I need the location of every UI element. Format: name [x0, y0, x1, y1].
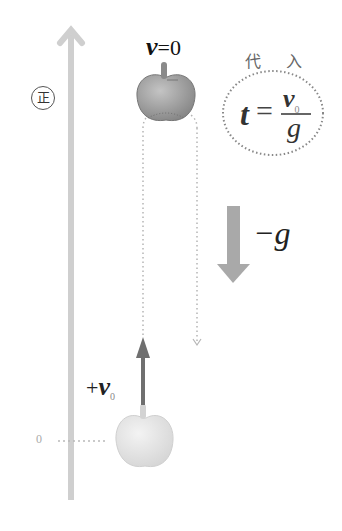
velocity-sign: +	[86, 375, 98, 400]
substitution-label: 代 入	[245, 48, 312, 72]
trajectory-path	[143, 110, 197, 342]
diagram-canvas	[0, 0, 342, 531]
velocity-symbol: v	[146, 32, 158, 61]
initial-velocity-arrow-icon	[136, 337, 150, 405]
top-velocity-label: v=0	[146, 32, 181, 62]
numerator-symbol: v	[283, 84, 295, 113]
vertical-axis	[60, 30, 82, 500]
velocity-subscript: 0	[110, 391, 115, 402]
positive-direction-label: 正	[31, 86, 55, 110]
gravity-label: −g	[253, 215, 291, 252]
gravity-arrow-icon	[217, 206, 250, 283]
velocity-symbol: v	[98, 372, 110, 401]
origin-label: 0	[36, 432, 42, 447]
apple-top-icon	[137, 62, 195, 121]
initial-velocity-label: +v0	[86, 372, 115, 402]
formula-t: t	[240, 96, 249, 133]
formula-numerator: v0	[283, 84, 300, 115]
formula-denominator: g	[287, 112, 301, 144]
apple-bottom-icon	[116, 404, 173, 467]
formula-equals: =	[256, 94, 273, 128]
velocity-value: =0	[158, 35, 181, 60]
